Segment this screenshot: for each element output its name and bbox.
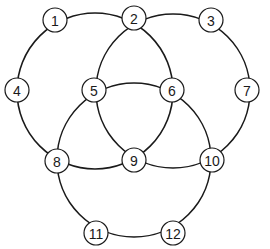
- node-5: 5: [82, 78, 106, 102]
- node-7: 7: [235, 78, 259, 102]
- node-11: 11: [84, 221, 108, 245]
- node-3: 3: [199, 8, 223, 32]
- node-label: 9: [130, 153, 138, 169]
- node-2: 2: [122, 6, 146, 30]
- node-label: 6: [168, 83, 176, 99]
- nodes: 123456789101112: [5, 6, 259, 245]
- node-1: 1: [43, 8, 67, 32]
- three-ring-diagram: 123456789101112: [0, 0, 270, 249]
- node-label: 10: [204, 153, 220, 169]
- node-label: 12: [165, 226, 181, 242]
- node-10: 10: [200, 148, 224, 172]
- node-label: 8: [53, 154, 61, 170]
- node-label: 5: [90, 83, 98, 99]
- node-6: 6: [160, 78, 184, 102]
- node-label: 1: [51, 13, 59, 29]
- node-8: 8: [45, 149, 69, 173]
- rings: [17, 13, 250, 237]
- node-label: 11: [89, 226, 104, 242]
- node-label: 2: [130, 11, 138, 27]
- node-label: 3: [207, 13, 215, 29]
- node-label: 4: [13, 83, 21, 99]
- node-label: 7: [243, 83, 251, 99]
- node-9: 9: [122, 148, 146, 172]
- node-4: 4: [5, 78, 29, 102]
- node-12: 12: [161, 221, 185, 245]
